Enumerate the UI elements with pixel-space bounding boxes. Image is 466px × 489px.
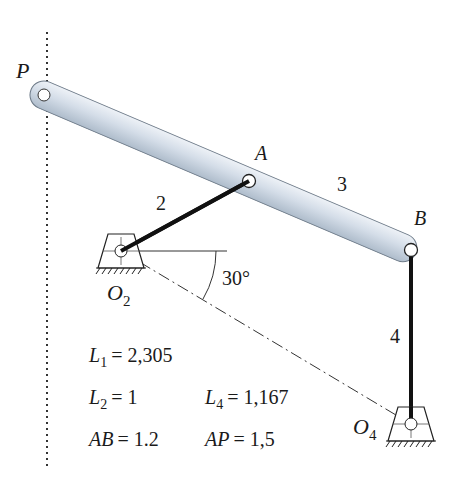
label-link-2: 2 — [156, 192, 166, 214]
label-o2: O2 — [107, 280, 130, 309]
label-b: B — [414, 207, 426, 229]
ground-support-o2 — [96, 181, 249, 274]
label-p: P — [15, 58, 29, 83]
param-l2: L2= 1 — [88, 386, 137, 412]
angle-label: 30° — [222, 267, 250, 289]
pin-b — [405, 244, 418, 257]
label-link-3: 3 — [337, 173, 347, 195]
label-link-4: 4 — [390, 325, 400, 347]
param-l1: L1= 2,305 — [88, 344, 172, 370]
param-l4: L4= 1,167 — [204, 386, 288, 412]
param-ap: AP= 1,5 — [203, 428, 275, 450]
label-a: A — [253, 142, 268, 164]
param-ab: AB= 1.2 — [87, 428, 159, 450]
angle-arc — [203, 251, 216, 299]
pin-p — [38, 89, 50, 101]
linkage-diagram: P A B O2 O4 2 3 4 30° L1= 2,305 L2= 1 L4… — [0, 0, 466, 489]
link-3-bar — [26, 77, 422, 266]
label-o4: O4 — [353, 414, 377, 443]
